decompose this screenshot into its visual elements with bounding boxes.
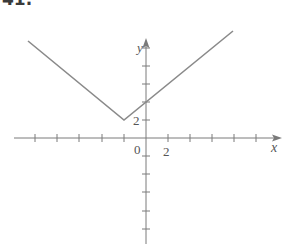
x-axis [14, 134, 282, 142]
origin-label: 0 [134, 142, 141, 157]
x-tick-label-2: 2 [163, 144, 170, 159]
x-axis-label: x [270, 140, 278, 155]
y-tick-label-2: 2 [133, 113, 140, 128]
graph: y x 0 2 2 [0, 0, 284, 244]
function-curve [28, 31, 233, 120]
y-axis [142, 38, 150, 244]
y-axis-label: y [135, 40, 143, 55]
